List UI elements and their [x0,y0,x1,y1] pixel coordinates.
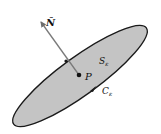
diagram-canvas: N̂ P Sε Cε [0,0,161,134]
point-p-dot [77,73,82,78]
normal-label: N̂ [45,17,56,28]
curve-label: Cε [102,86,112,97]
point-label: P [84,71,92,82]
boundary-crossing-dot [64,59,67,62]
